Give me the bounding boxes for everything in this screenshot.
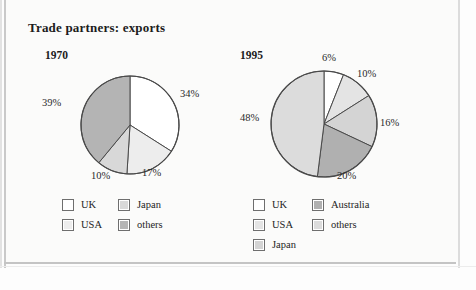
legend-item-australia-1995[interactable]: Australia [312, 196, 370, 213]
legend-label-usa-1995: USA [272, 219, 293, 230]
pie-label-1995-uk: 6% [322, 52, 336, 63]
legend-label-japan-1970: Japan [137, 199, 161, 210]
pie-label-1995-usa: 10% [357, 68, 376, 79]
pie-label-1970-uk: 34% [180, 88, 199, 99]
pie-label-1995-japan: 16% [380, 117, 399, 128]
legend-item-japan-1970[interactable]: Japan [118, 196, 163, 213]
legend-item-uk-1970[interactable]: UK [62, 196, 102, 213]
legend-item-uk-1995[interactable]: UK [253, 196, 296, 213]
legend-label-others-1995: others [331, 219, 357, 230]
legend-1995: UK USA Japan Australia others [253, 196, 369, 253]
pie-label-1970-japan: 10% [91, 170, 110, 181]
pie-slice-others-1995[interactable] [271, 71, 324, 177]
legend-label-usa-1970: USA [81, 219, 102, 230]
pie-label-1970-others: 39% [42, 97, 61, 108]
legend-swatch-uk-1970 [62, 199, 74, 211]
pie-label-1970-usa: 17% [142, 167, 161, 178]
legend-label-others-1970: others [137, 219, 163, 230]
pie-label-1995-australia: 20% [337, 170, 356, 181]
legend-swatch-japan-1970 [118, 199, 130, 211]
chart-title-1995: 1995 [240, 49, 263, 61]
legend-label-australia-1995: Australia [331, 199, 370, 210]
legend-item-others-1995[interactable]: others [312, 216, 370, 233]
legend-item-usa-1995[interactable]: USA [253, 216, 296, 233]
legend-1970: UK USA Japan others [62, 196, 163, 233]
legend-swatch-japan-1995 [253, 239, 265, 251]
scan-edge-bottom-outer [0, 266, 476, 267]
legend-item-others-1970[interactable]: others [118, 216, 163, 233]
legend-label-japan-1995: Japan [272, 239, 296, 250]
scan-edge-left-outer [0, 0, 2, 268]
legend-swatch-others-1995 [312, 219, 324, 231]
pie-label-1995-others: 48% [240, 112, 259, 123]
page-title: Trade partners: exports [28, 20, 165, 36]
chart-page: Trade partners: exports 1970 39% 34% 10%… [0, 0, 476, 290]
scan-edge-right [458, 0, 460, 268]
chart-title-1970: 1970 [45, 49, 68, 61]
legend-item-usa-1970[interactable]: USA [62, 216, 102, 233]
scan-edge-bottom [4, 262, 456, 264]
legend-label-uk-1995: UK [272, 199, 287, 210]
pie-chart-1995 [268, 68, 380, 180]
legend-label-uk-1970: UK [81, 199, 96, 210]
pie-svg-1970 [78, 73, 182, 177]
legend-swatch-others-1970 [118, 219, 130, 231]
legend-swatch-australia-1995 [312, 199, 324, 211]
legend-swatch-usa-1970 [62, 219, 74, 231]
legend-swatch-usa-1995 [253, 219, 265, 231]
legend-item-japan-1995[interactable]: Japan [253, 236, 296, 253]
pie-svg-1995 [268, 68, 380, 180]
pie-chart-1970 [78, 73, 182, 177]
legend-swatch-uk-1995 [253, 199, 265, 211]
